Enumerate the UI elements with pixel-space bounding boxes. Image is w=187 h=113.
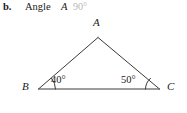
geometry-figure-panel: b. Angle A 90° A B C 40° 50° — [0, 0, 187, 113]
vertex-label-a: A — [93, 16, 100, 28]
angle-measure-b: 40° — [51, 74, 66, 85]
vertex-label-b: B — [22, 80, 29, 92]
angle-measure-c: 50° — [121, 74, 136, 85]
vertex-label-c: C — [167, 80, 174, 92]
side-AB-line — [39, 38, 99, 90]
